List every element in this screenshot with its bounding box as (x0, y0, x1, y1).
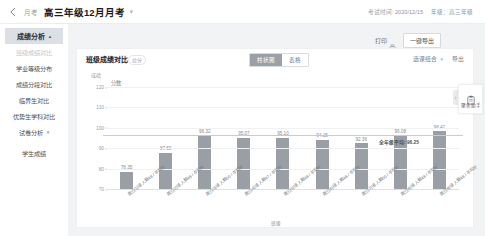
sidebar-group2-label: 试卷分析 (19, 128, 43, 137)
print-button[interactable]: 打印 (375, 36, 396, 45)
clipboard-icon (466, 91, 476, 101)
focus-assistant-label: 聚焦助手 (461, 102, 481, 108)
grid-line (107, 148, 459, 149)
x-label-slot: 高三(1)班 人数49 / 平均分 (107, 190, 146, 224)
y-axis-tick: 90 (99, 146, 104, 151)
y-axis-tick: 100 (96, 125, 104, 130)
content-area: 打印 一键导出 班级成绩对比 总分 柱状图 表格 选课组合 ▾ (68, 24, 485, 236)
card-export-button[interactable]: 导出 (452, 54, 464, 63)
chart-card: 班级成绩对比 总分 柱状图 表格 选课组合 ▾ 导出 成绩 分数 (76, 48, 474, 228)
sidebar-group-label: 成绩分析 (17, 31, 45, 41)
sidebar-item-student-scores[interactable]: 学生成绩 (0, 145, 68, 161)
card-header-right: 选课组合 ▾ 导出 (413, 54, 464, 63)
sidebar-group-score-analysis[interactable]: 成绩分析 ▴ (5, 28, 63, 44)
x-axis-labels: 高三(1)班 人数49 / 平均分高三(2)班 人数48 / 平均分高三(3)班… (107, 190, 459, 224)
chevron-right-icon: › (455, 95, 457, 100)
x-label-slot: 高三(3)班 人数50 / 平均分 (185, 190, 224, 224)
sidebar-item-label: 学生成绩 (22, 149, 46, 158)
average-reference-line (103, 135, 463, 136)
axis-unit-label: 成绩 (91, 71, 101, 78)
course-combo-select[interactable]: 选课组合 ▾ (413, 54, 443, 63)
grade-text: 年级：高三年级 (431, 8, 473, 16)
y-axis-tick: 70 (99, 187, 104, 192)
app-root: 月考 高三年级12月月考 ▾ 考试时间: 2020/12/15 年级：高三年级 … (0, 0, 485, 236)
printer-icon (389, 37, 396, 44)
x-label-slot: 高三(5)班 人数49 / 平均分 (263, 190, 302, 224)
sidebar-item-label: 临界生对比 (19, 96, 49, 105)
focus-assistant-panel[interactable]: 聚焦助手 (458, 84, 483, 114)
chevron-down-icon: ▾ (47, 129, 50, 135)
view-mode-toggle: 柱状图 表格 (249, 53, 309, 67)
print-label: 打印 (375, 36, 387, 45)
sidebar-item-level-distribution[interactable]: 学业等级分布 (0, 60, 68, 76)
bar-chart: 成绩 分数 78.3587.6996.3295.0795.1094.1592.3… (77, 69, 475, 227)
grid-line (107, 128, 459, 129)
chevron-down-icon[interactable]: ▾ (130, 8, 134, 16)
page-title: 高三年级12月月考 (44, 5, 125, 19)
export-all-button[interactable]: 一键导出 (403, 33, 441, 48)
x-label-slot: 高三(8)班 人数49 / 平均分 (381, 190, 420, 224)
x-label-slot: 高三(7)班 人数50 / 平均分 (342, 190, 381, 224)
grid-line (107, 107, 459, 108)
breadcrumb-parent[interactable]: 月考 (24, 7, 38, 17)
sidebar-item-label: 班级成绩对比 (16, 48, 52, 57)
average-reference-label: 全年级平均: 96.25 (379, 138, 419, 145)
sidebar-item-advantage-subjects[interactable]: 优势生学科对比 (0, 108, 68, 124)
x-label-slot: 高三(2)班 人数48 / 平均分 (146, 190, 185, 224)
bar[interactable]: 96.32 (198, 135, 211, 189)
x-axis-title: 班级 (77, 220, 475, 226)
top-bar: 月考 高三年级12月月考 ▾ 考试时间: 2020/12/15 年级：高三年级 (0, 0, 485, 24)
plot-area: 78.3587.6996.3295.0795.1094.1592.3696.08… (107, 87, 459, 189)
sidebar-item-class-compare[interactable]: 班级成绩对比 (0, 44, 68, 60)
bar[interactable]: 98.42 (433, 131, 446, 189)
tab-bar-chart[interactable]: 柱状图 (250, 54, 282, 66)
sidebar-item-label: 优势生学科对比 (13, 112, 55, 121)
sidebar-item-segment-compare[interactable]: 成绩分段对比 (0, 76, 68, 92)
chevron-up-icon: ▴ (49, 33, 52, 39)
card-header: 班级成绩对比 总分 柱状图 表格 选课组合 ▾ 导出 (77, 49, 473, 69)
sidebar-item-critical-students[interactable]: 临界生对比 (0, 92, 68, 108)
chevron-down-icon: ▾ (440, 56, 443, 62)
sidebar: 成绩分析 ▴ 班级成绩对比 学业等级分布 成绩分段对比 临界生对比 优势生学科对… (0, 24, 68, 236)
topbar-meta: 考试时间: 2020/12/15 年级：高三年级 (368, 8, 477, 16)
card-tag-total-score: 总分 (128, 55, 146, 65)
bar-value-label: 92.36 (355, 137, 367, 142)
y-axis-tick: 110 (96, 105, 104, 110)
course-combo-label: 选课组合 (413, 54, 437, 63)
grid-line (107, 87, 459, 88)
card-title: 班级成绩对比 (86, 54, 128, 64)
tab-table[interactable]: 表格 (282, 54, 308, 66)
x-label-slot: 高三(6)班 人数48 / 平均分 (303, 190, 342, 224)
sidebar-item-label: 学业等级分布 (16, 64, 52, 73)
sidebar-group-paper-analysis[interactable]: 试卷分析 ▾ (0, 124, 68, 140)
x-label-slot: 高三(9)班 人数48 / 平均分 (420, 190, 459, 224)
bar-value-label: 96.32 (199, 129, 211, 134)
y-axis-tick: 120 (96, 85, 104, 90)
action-row: 打印 一键导出 (375, 33, 441, 48)
y-axis-tick: 80 (99, 166, 104, 171)
sidebar-item-label: 成绩分段对比 (16, 80, 52, 89)
series-label: 分数 (111, 79, 121, 86)
x-label-slot: 高三(4)班 人数47 / 平均分 (224, 190, 263, 224)
chevron-left-icon[interactable] (8, 7, 18, 17)
bar-value-label: 96.08 (395, 129, 407, 134)
bar-slot: 78.35 (107, 87, 146, 189)
exam-time-text: 考试时间: 2020/12/15 (368, 8, 423, 16)
